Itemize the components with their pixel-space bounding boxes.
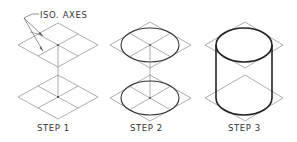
step-3-drawing <box>205 22 283 121</box>
step1-top-axis-ext <box>30 32 38 34</box>
step-1-label: STEP 1 <box>37 123 70 133</box>
step-2-drawing <box>110 22 191 121</box>
step2-bottom-center-point <box>149 97 151 99</box>
cylinder-bottom-curve <box>216 98 272 115</box>
step-3-label: STEP 3 <box>228 123 261 133</box>
iso-axes-leader <box>24 14 43 51</box>
step1-bottom-center-point <box>57 96 59 98</box>
step-2-label: STEP 2 <box>130 123 163 133</box>
iso-axes-callout: ISO. AXES <box>40 10 87 20</box>
cylinder-top-face <box>216 28 272 62</box>
isometric-cylinder-construction-figure: ISO. AXES STEP 1 STEP 2 STEP 3 <box>0 0 297 142</box>
step-1-drawing <box>18 14 98 119</box>
